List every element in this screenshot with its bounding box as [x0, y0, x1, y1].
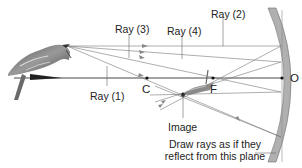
note-line-1: Draw rays as if they: [160, 138, 270, 150]
ray-4-label: Ray (4): [167, 26, 201, 37]
focal-point-label: F: [210, 84, 217, 96]
ray-3-label: Ray (3): [115, 24, 149, 35]
ray-2-label: Ray (2): [211, 9, 245, 20]
object-bird-icon: [8, 44, 71, 100]
vertex-label: O: [290, 73, 299, 85]
point-f: [211, 76, 214, 79]
note-line-2: reflect from this plane: [160, 150, 270, 162]
point-o: [280, 76, 283, 79]
concave-mirror: [268, 8, 291, 162]
ray-1-label: Ray (1): [90, 91, 124, 102]
center-of-curvature-label: C: [142, 84, 150, 96]
reflection-plane-note: Draw rays as if they reflect from this p…: [160, 138, 270, 162]
image-label: Image: [168, 122, 197, 133]
point-c: [145, 76, 148, 79]
